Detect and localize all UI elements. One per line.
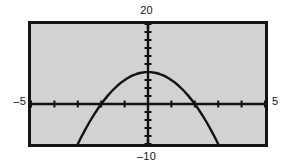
x-min-label: –5 [4,95,26,107]
y-max-label: 20 [0,4,293,16]
graph-viewport[interactable] [28,21,268,147]
graph-plot [31,24,265,144]
y-min-label: –10 [0,150,293,162]
x-max-label: 5 [272,95,292,107]
graphing-calculator-screen: 20 –10 –5 5 [0,0,293,168]
